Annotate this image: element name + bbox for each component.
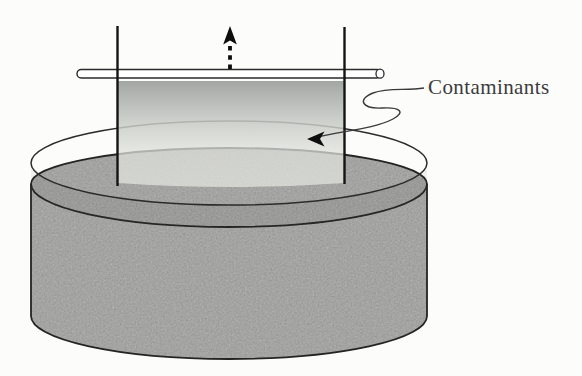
support-rod xyxy=(77,70,381,79)
diagram-canvas: Contaminants xyxy=(0,0,582,376)
plate xyxy=(118,81,345,187)
up-arrowhead-icon xyxy=(223,26,237,45)
contaminants-label: Contaminants xyxy=(428,75,549,99)
rod-end-cap xyxy=(376,69,384,78)
figure-diagram: Contaminants xyxy=(0,0,582,376)
